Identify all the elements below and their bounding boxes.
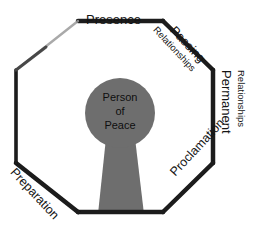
- edge-label-presence: Presence: [86, 13, 141, 26]
- keyhole-center-label: Person of Peace: [85, 90, 155, 132]
- keyhole-label-line-3: Peace: [85, 118, 155, 132]
- edge-label-permanent-secondary: Relationships: [237, 70, 247, 127]
- keyhole-label-line-1: Person: [85, 90, 155, 104]
- keyhole-label-line-2: of: [85, 104, 155, 118]
- octagon-edge-top-left-dark-part: [16, 47, 46, 70]
- person-of-peace-diagram: Presence Passing Relationships Permanent…: [0, 0, 256, 242]
